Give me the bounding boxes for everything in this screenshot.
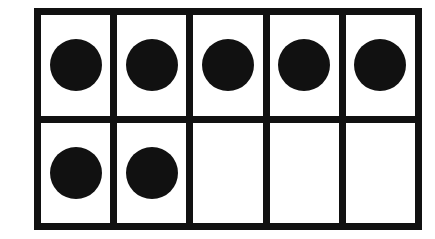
counter-dot-icon xyxy=(126,147,178,199)
ten-frame-cell xyxy=(117,15,186,116)
ten-frame-cell xyxy=(270,123,339,224)
ten-frame-cell xyxy=(346,15,415,116)
ten-frame-cell xyxy=(117,123,186,224)
ten-frame-cell xyxy=(346,123,415,224)
ten-frame-cell xyxy=(41,123,110,224)
counter-dot-icon xyxy=(278,39,330,91)
counter-dot-icon xyxy=(126,39,178,91)
counter-dot-icon xyxy=(50,147,102,199)
ten-frame-cell xyxy=(193,15,262,116)
ten-frame-cell xyxy=(41,15,110,116)
counter-dot-icon xyxy=(354,39,406,91)
counter-dot-icon xyxy=(50,39,102,91)
ten-frame-cell xyxy=(270,15,339,116)
counter-dot-icon xyxy=(202,39,254,91)
ten-frame-cell xyxy=(193,123,262,224)
ten-frame xyxy=(34,8,422,230)
